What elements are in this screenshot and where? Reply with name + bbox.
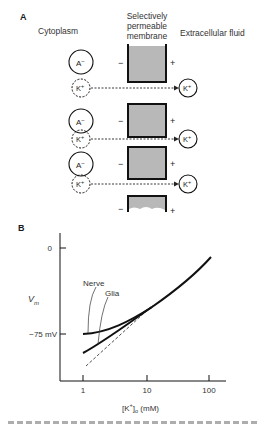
plus-sign: + xyxy=(170,116,175,126)
y-tick-0-label: 0 xyxy=(48,244,53,253)
svg-text:A−: A− xyxy=(76,117,85,127)
plus-sign: + xyxy=(170,58,175,68)
nerve-leader xyxy=(88,287,96,333)
membrane-block-1 xyxy=(128,44,166,82)
membrane-block-2 xyxy=(128,104,166,137)
plus-sign: + xyxy=(170,159,175,169)
svg-text:K+: K+ xyxy=(183,83,191,93)
glia-curve xyxy=(83,307,152,353)
membrane-block-3 xyxy=(128,147,166,179)
x-label-unit: (mM) xyxy=(138,404,159,413)
glia-label: Glia xyxy=(105,289,120,298)
minus-sign: − xyxy=(118,58,123,68)
x-label-main: [K xyxy=(122,404,130,413)
x-tick-10-label: 10 xyxy=(143,386,152,395)
nerve-label: Nerve xyxy=(83,279,105,288)
x-tick-100-label: 100 xyxy=(202,386,216,395)
membrane-potential-chart: Nerve Glia 0 −75 mV 1 10 100 xyxy=(0,225,269,405)
svg-text:A−: A− xyxy=(76,58,85,68)
x-axis-label: [K+]o (mM) xyxy=(122,402,159,414)
x-tick-1-label: 1 xyxy=(81,386,86,395)
plus-sign: + xyxy=(170,206,175,216)
y-axis-label: Vm xyxy=(28,294,39,306)
svg-text:K+: K+ xyxy=(183,179,191,189)
svg-text:K+: K+ xyxy=(76,83,84,93)
membrane-diagram: − + − + − + − + A− A− A− K+ K+ K+ K+ K+ … xyxy=(0,0,269,230)
minus-sign: − xyxy=(118,204,123,214)
glia-leader xyxy=(98,297,108,344)
minus-sign: − xyxy=(118,116,123,126)
svg-text:K+: K+ xyxy=(183,134,191,144)
nerve-curve xyxy=(83,257,211,334)
svg-text:K+: K+ xyxy=(76,179,84,189)
y-tick-75-label: −75 mV xyxy=(29,330,57,339)
y-axis-label-sub: m xyxy=(34,300,39,306)
svg-text:K+: K+ xyxy=(76,134,84,144)
svg-text:A−: A− xyxy=(76,160,85,170)
membrane-block-4 xyxy=(128,196,166,212)
minus-sign: − xyxy=(118,159,123,169)
